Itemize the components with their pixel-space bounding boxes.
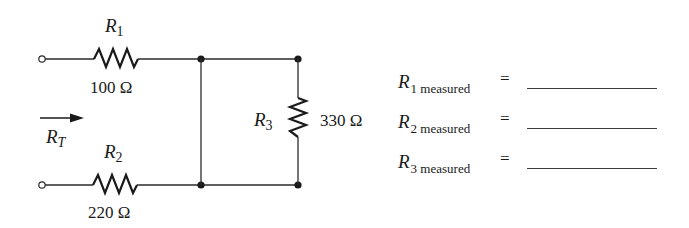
r1-value: 100 Ω <box>90 79 132 96</box>
resistor-r2-icon <box>93 175 137 193</box>
measurement-r3-label: R3 measured <box>398 151 470 177</box>
measurement-r2-symbol: R <box>398 111 410 132</box>
measurement-r1-symbol: R <box>398 71 410 92</box>
measurement-r3: R3 measured = <box>398 151 668 177</box>
measurement-r3-symbol: R <box>398 151 410 172</box>
r1-subscript: 1 <box>117 24 124 39</box>
r2-value: 220 Ω <box>88 204 130 221</box>
measurement-r2-equals: = <box>500 109 510 129</box>
r2-symbol: R <box>104 141 116 162</box>
bottom-terminal <box>39 182 45 188</box>
r3-symbol: R <box>254 109 266 130</box>
r3-label: R3 <box>254 110 273 133</box>
resistor-r3-icon <box>290 98 306 137</box>
rt-symbol: R <box>46 126 58 147</box>
measurement-r3-equals: = <box>500 149 510 169</box>
r3-value: 330 Ω <box>320 112 362 129</box>
measurement-r1-subscript: 1 measured <box>411 81 471 96</box>
measurement-r1-label: R1 measured <box>398 71 470 97</box>
r1-symbol: R <box>105 15 117 36</box>
r1-label: R1 <box>105 16 124 39</box>
resistor-r1-icon <box>94 49 138 67</box>
right-arrow-icon <box>40 114 84 123</box>
r3-subscript: 3 <box>266 118 273 133</box>
rt-subscript: T <box>58 135 66 150</box>
top-terminal <box>39 56 45 62</box>
measurement-r2: R2 measured = <box>398 111 668 137</box>
r2-label: R2 <box>104 142 123 165</box>
measurement-r2-label: R2 measured <box>398 111 470 137</box>
measurement-r3-blank[interactable] <box>527 168 657 169</box>
rt-label: RT <box>46 127 65 150</box>
measurement-r1: R1 measured = <box>398 71 668 97</box>
r2-subscript: 2 <box>116 150 123 165</box>
measurement-r3-subscript: 3 measured <box>411 161 471 176</box>
measurement-r2-subscript: 2 measured <box>411 121 471 136</box>
measurement-r2-blank[interactable] <box>527 128 657 129</box>
measurement-r1-equals: = <box>500 69 510 89</box>
measurement-r1-blank[interactable] <box>527 88 657 89</box>
